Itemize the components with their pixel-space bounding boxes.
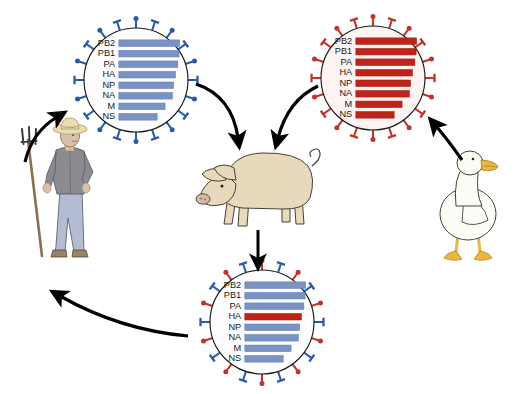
avian-virus: PB2PB1PAHANPNAMNS bbox=[312, 14, 435, 142]
segment-label-m: M bbox=[345, 99, 353, 109]
ha-spike-icon bbox=[260, 258, 265, 271]
segment-bar-pa bbox=[119, 61, 178, 68]
segment-bar-np bbox=[356, 80, 411, 87]
ha-spike-icon bbox=[312, 56, 324, 62]
farmer-boot-left bbox=[51, 250, 67, 257]
na-spike-icon bbox=[388, 18, 396, 29]
segment-bar-ha bbox=[245, 313, 302, 320]
ha-spike-icon bbox=[403, 119, 412, 130]
segment-label-pb2: PB2 bbox=[335, 36, 352, 46]
ha-spike-icon bbox=[422, 94, 434, 100]
ha-spike-icon bbox=[334, 119, 343, 130]
segment-bar-ns bbox=[356, 112, 394, 119]
duck bbox=[440, 151, 498, 260]
na-spike-icon bbox=[350, 127, 358, 138]
na-spike-icon bbox=[210, 352, 221, 362]
segment-label-pa: PA bbox=[230, 301, 242, 311]
na-spike-icon bbox=[321, 38, 332, 48]
segment-label-na: NA bbox=[102, 90, 116, 100]
farmer-jeans bbox=[55, 190, 84, 252]
segment-label-m: M bbox=[234, 343, 242, 353]
ha-spike-icon bbox=[134, 16, 139, 29]
segment-label-na: NA bbox=[228, 332, 242, 342]
reassortant-virus: PB2PB1PAHANPNAMNS bbox=[201, 258, 324, 386]
ha-spike-icon bbox=[166, 121, 175, 132]
na-spike-icon bbox=[239, 371, 247, 382]
pig-snout bbox=[196, 194, 210, 204]
farmer bbox=[22, 118, 94, 257]
segment-label-np: NP bbox=[339, 78, 352, 88]
segment-bar-ns bbox=[119, 114, 157, 121]
arrow-human-to-pig bbox=[196, 84, 238, 138]
segment-bar-m bbox=[356, 101, 402, 108]
segment-label-ha: HA bbox=[228, 311, 242, 321]
segment-label-pb1: PB1 bbox=[224, 290, 241, 300]
segment-bar-na bbox=[119, 93, 173, 100]
segment-label-m: M bbox=[108, 101, 116, 111]
segment-label-np: NP bbox=[228, 322, 241, 332]
segment-bar-m bbox=[119, 103, 165, 110]
duck-bill bbox=[481, 160, 498, 171]
arrow-reassortant-to-farmer bbox=[60, 296, 188, 336]
farmer-hand-left bbox=[43, 183, 51, 193]
ha-spike-icon bbox=[201, 338, 213, 344]
duck-eye bbox=[472, 158, 475, 161]
segment-label-ns: NS bbox=[339, 109, 352, 119]
ha-spike-icon bbox=[312, 94, 324, 100]
farmer-hand-right bbox=[82, 183, 90, 193]
ha-spike-icon bbox=[166, 28, 175, 39]
segment-label-pa: PA bbox=[341, 57, 353, 67]
farmer-boot-right bbox=[72, 250, 88, 257]
na-spike-icon bbox=[312, 74, 323, 82]
duck-foot-left bbox=[444, 251, 462, 260]
segment-bar-pb2 bbox=[119, 40, 180, 47]
segment-label-pb2: PB2 bbox=[98, 38, 115, 48]
arrow-avian-to-pig bbox=[278, 86, 318, 138]
segment-bar-pa bbox=[356, 59, 415, 66]
pig-tail bbox=[310, 149, 320, 166]
segment-bar-pa bbox=[245, 303, 304, 310]
segment-label-pa: PA bbox=[104, 59, 116, 69]
ha-spike-icon bbox=[292, 270, 301, 281]
na-spike-icon bbox=[277, 262, 285, 273]
ha-spike-icon bbox=[292, 363, 301, 374]
segment-label-ns: NS bbox=[102, 111, 115, 121]
na-spike-icon bbox=[414, 108, 425, 118]
segment-bar-m bbox=[245, 345, 291, 352]
pig bbox=[196, 149, 320, 226]
human-virus: PB2PB1PAHANPNAMNS bbox=[75, 16, 198, 144]
ha-spike-icon bbox=[75, 96, 87, 102]
segment-bar-pb1 bbox=[356, 48, 416, 55]
segment-bar-ha bbox=[356, 69, 413, 76]
segment-bar-np bbox=[245, 324, 300, 331]
na-spike-icon bbox=[424, 74, 435, 82]
na-spike-icon bbox=[303, 352, 314, 362]
ha-spike-icon bbox=[75, 58, 87, 64]
ha-spike-icon bbox=[371, 129, 376, 142]
segment-label-ns: NS bbox=[228, 353, 241, 363]
na-spike-icon bbox=[151, 20, 159, 31]
ha-spike-icon bbox=[371, 14, 376, 27]
ha-spike-icon bbox=[185, 96, 197, 102]
arrow-duck-to-avian bbox=[436, 126, 462, 160]
segment-bar-ns bbox=[245, 356, 283, 363]
ha-spike-icon bbox=[403, 26, 412, 37]
na-spike-icon bbox=[321, 108, 332, 118]
segment-label-pb2: PB2 bbox=[224, 280, 241, 290]
na-spike-icon bbox=[84, 110, 95, 120]
ha-spike-icon bbox=[97, 121, 106, 132]
segment-bar-na bbox=[245, 335, 299, 342]
na-spike-icon bbox=[350, 18, 358, 29]
na-spike-icon bbox=[388, 127, 396, 138]
segment-label-na: NA bbox=[339, 88, 353, 98]
ha-spike-icon bbox=[201, 300, 213, 306]
segment-bar-na bbox=[356, 91, 410, 98]
segment-label-ha: HA bbox=[339, 67, 353, 77]
na-spike-icon bbox=[313, 318, 324, 326]
na-spike-icon bbox=[151, 129, 159, 140]
ha-spike-icon bbox=[422, 56, 434, 62]
segment-label-ha: HA bbox=[102, 69, 116, 79]
na-spike-icon bbox=[84, 40, 95, 50]
ha-spike-icon bbox=[311, 300, 323, 306]
ha-spike-icon bbox=[223, 363, 232, 374]
